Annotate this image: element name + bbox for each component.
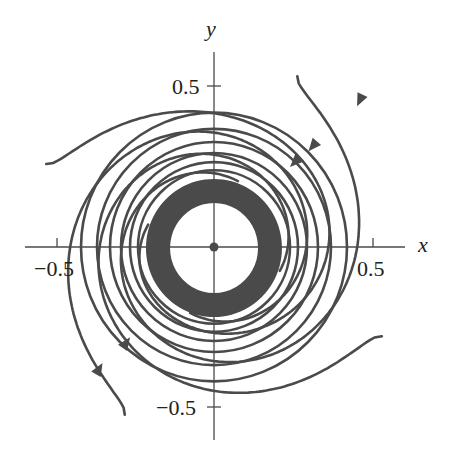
y-tick-label-pos: 0.5 — [172, 76, 200, 98]
x-axis-label: x — [418, 234, 428, 256]
x-tick-label-pos: 0.5 — [357, 258, 385, 280]
flow-arrow-icon — [352, 92, 367, 108]
equilibrium-point — [210, 243, 219, 252]
y-axis-label: y — [206, 18, 216, 40]
y-tick-label-neg: −0.5 — [156, 397, 196, 419]
phase-portrait-plot — [0, 0, 452, 469]
x-tick-label-neg: −0.5 — [34, 258, 74, 280]
